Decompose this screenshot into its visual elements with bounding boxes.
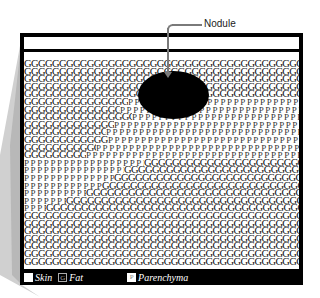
callout-line — [172, 24, 202, 26]
skin-layer-inner — [24, 52, 299, 60]
legend-label: Parenchyma — [138, 272, 188, 283]
legend-item-fat: G Fat — [58, 272, 83, 283]
skin-swatch-icon — [24, 273, 33, 282]
fat-region: GGGGGGGGGGGGGGGGGGGGGGGGGGGGGGGGGGGGGGGG… — [24, 258, 299, 266]
nodule-label: Nodule — [204, 18, 236, 29]
tissue-row: GGGGGGGGGGGGGGGGGGGGGGGGGGGGGGGGGGGGGGGG… — [24, 258, 299, 266]
skin-layer — [24, 37, 299, 49]
callout-line-vertical — [167, 28, 169, 74]
nodule — [138, 71, 209, 119]
legend-label: Skin — [35, 272, 52, 283]
arrow-down-icon — [164, 72, 172, 78]
fat-swatch-icon: G — [58, 273, 67, 282]
legend-item-skin: Skin — [24, 272, 52, 283]
legend-label: Fat — [69, 272, 83, 283]
parenchyma-swatch-icon: P — [127, 273, 136, 282]
legend: Skin G Fat P Parenchyma — [24, 270, 299, 284]
legend-item-parenchyma: P Parenchyma — [127, 272, 188, 283]
